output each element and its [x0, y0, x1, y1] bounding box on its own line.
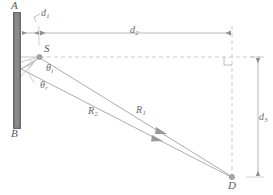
ray-R1-direct	[40, 58, 231, 176]
label-theta-r: θr	[40, 80, 48, 91]
label-d3-subscript: 3	[264, 116, 267, 123]
label-R2: R2	[88, 106, 98, 117]
label-d2: d2	[130, 25, 139, 36]
mirror-surface	[13, 12, 21, 129]
label-source-S: S	[44, 43, 50, 54]
label-theta-r-subscript: r	[45, 84, 48, 91]
label-mirror-bottom-B: B	[11, 128, 18, 139]
label-detector-D: D	[228, 180, 236, 191]
point-S-marker	[37, 54, 42, 59]
label-mirror-top-A: A	[11, 0, 18, 11]
label-d2-subscript: 2	[135, 29, 138, 36]
right-angle-marker	[224, 57, 232, 65]
label-R1-subscript: 1	[142, 109, 145, 116]
label-d1-subscript: 1	[46, 12, 49, 19]
label-d3: d3	[259, 112, 268, 123]
label-theta-i: θi	[46, 63, 53, 74]
ray-R2-reflected	[21, 58, 231, 177]
dimension-d1	[22, 14, 40, 46]
label-theta-i-subscript: i	[51, 67, 53, 74]
label-R1: R1	[136, 105, 146, 116]
ray-diagram-figure: A B S D d1 d2 d3 R1 R2 θi θr	[0, 0, 273, 195]
label-R2-subscript: 2	[94, 110, 97, 117]
label-d1: d1	[41, 8, 50, 19]
construction-lines	[40, 26, 262, 180]
